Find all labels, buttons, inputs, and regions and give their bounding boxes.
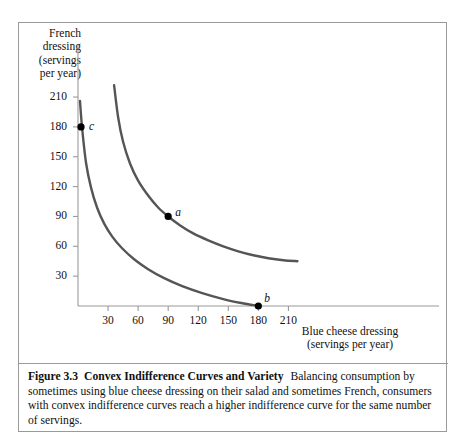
y-tick-label: 30 xyxy=(33,269,67,281)
y-axis-ticks xyxy=(73,97,78,276)
point-marker-b xyxy=(255,302,262,309)
figure-container: French dressing (servings per year) 3060… xyxy=(18,22,447,432)
y-tick-label: 150 xyxy=(33,150,67,162)
axes xyxy=(78,45,439,306)
point-label-b: b xyxy=(264,292,270,304)
y-tick-label: 60 xyxy=(33,239,67,251)
x-tick-label: 90 xyxy=(153,314,183,326)
x-tick-label: 30 xyxy=(93,314,123,326)
y-tick-label: 90 xyxy=(33,209,67,221)
point-marker-c xyxy=(77,123,84,130)
curve-higher-indifference-curve xyxy=(114,85,297,261)
indifference-curves xyxy=(80,85,297,306)
indifference-curves-plot xyxy=(19,23,448,363)
x-tick-label: 120 xyxy=(183,314,213,326)
caption-title: Convex Indifference Curves and Variety xyxy=(84,370,283,383)
y-tick-label: 210 xyxy=(33,90,67,102)
x-tick-label: 60 xyxy=(123,314,153,326)
figure-caption: Figure 3.3Convex Indifference Curves and… xyxy=(19,363,448,434)
x-tick-label: 150 xyxy=(213,314,243,326)
y-tick-label: 120 xyxy=(33,180,67,192)
caption-number: Figure 3.3 xyxy=(28,370,78,383)
point-marker-a xyxy=(165,213,172,220)
chart-plot-area: French dressing (servings per year) 3060… xyxy=(19,23,448,363)
curve-lower-indifference-curve xyxy=(80,101,258,306)
point-label-c: c xyxy=(89,120,94,132)
point-label-a: a xyxy=(175,206,181,218)
y-tick-label: 180 xyxy=(33,120,67,132)
x-axis-title: Blue cheese dressing (servings per year) xyxy=(255,325,445,352)
